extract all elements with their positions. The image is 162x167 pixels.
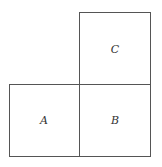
label-b: B bbox=[111, 114, 119, 127]
label-c: C bbox=[111, 43, 119, 56]
label-a: A bbox=[40, 114, 48, 127]
